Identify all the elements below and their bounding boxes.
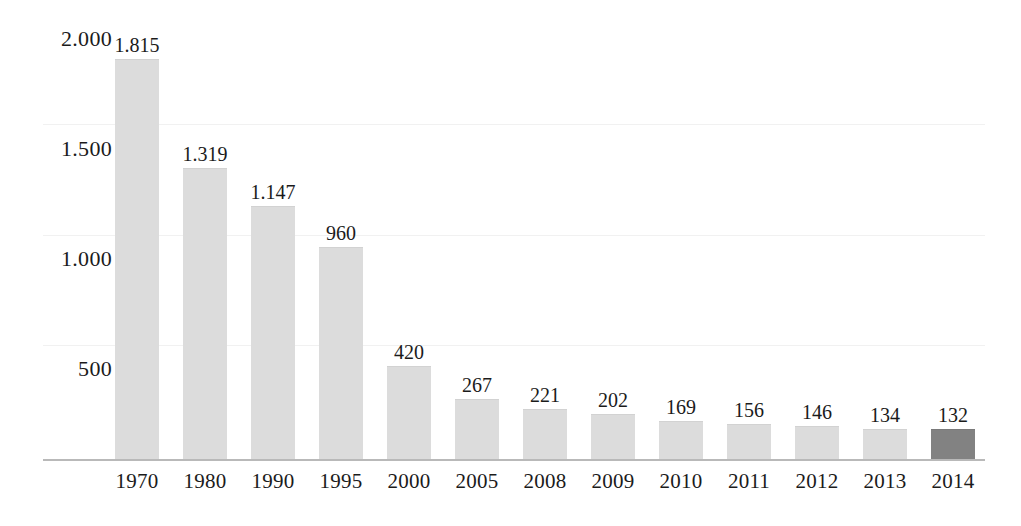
bar-group[interactable]: 960	[307, 214, 375, 459]
y-axis-tick-label-500: 500	[20, 356, 112, 382]
bar-value-label-2011: 156	[715, 400, 783, 425]
bar-1995[interactable]	[319, 247, 363, 459]
bar-value-label-2005: 267	[443, 375, 511, 400]
bar-value-label-2000: 420	[375, 342, 443, 367]
bar-group[interactable]: 1.815	[103, 26, 171, 459]
y-axis-tick-label-1500: 1.500	[20, 136, 112, 162]
bar-1990[interactable]	[251, 206, 295, 459]
bar-group[interactable]: 1.319	[171, 135, 239, 459]
x-axis-tick-label-1990: 1990	[239, 469, 307, 494]
x-axis-tick-label-2014: 2014	[919, 469, 987, 494]
bar-group[interactable]: 1.147	[239, 173, 307, 459]
bar-1970[interactable]	[115, 59, 159, 459]
gridline-1750	[43, 124, 985, 125]
bar-2014[interactable]	[931, 429, 975, 459]
bar-2010[interactable]	[659, 421, 703, 459]
x-axis-tick-label-1980: 1980	[171, 469, 239, 494]
x-axis-tick-label-2005: 2005	[443, 469, 511, 494]
bar-group[interactable]: 169	[647, 388, 715, 459]
bar-2009[interactable]	[591, 414, 635, 459]
bar-2013[interactable]	[863, 429, 907, 459]
bar-group[interactable]: 146	[783, 393, 851, 459]
y-axis-tick-label-2000: 2.000	[20, 26, 112, 52]
bar-value-label-1980: 1.319	[171, 144, 239, 169]
bar-group[interactable]: 156	[715, 391, 783, 459]
bar-value-label-1995: 960	[307, 223, 375, 248]
x-axis-tick-label-2011: 2011	[715, 469, 783, 494]
bar-2011[interactable]	[727, 424, 771, 459]
bar-group[interactable]: 221	[511, 376, 579, 459]
bar-group[interactable]: 267	[443, 366, 511, 459]
bar-value-label-2008: 221	[511, 385, 579, 410]
bar-group[interactable]: 202	[579, 381, 647, 459]
bar-group[interactable]: 132	[919, 396, 987, 459]
x-axis-tick-label-1995: 1995	[307, 469, 375, 494]
bar-value-label-1990: 1.147	[239, 182, 307, 207]
bar-value-label-2010: 169	[647, 397, 715, 422]
bar-value-label-2009: 202	[579, 390, 647, 415]
bar-2000[interactable]	[387, 366, 431, 459]
bar-1980[interactable]	[183, 168, 227, 459]
bar-group[interactable]: 134	[851, 396, 919, 459]
bar-group[interactable]: 420	[375, 333, 443, 459]
bar-2005[interactable]	[455, 399, 499, 459]
bar-value-label-2014: 132	[919, 405, 987, 430]
bar-2008[interactable]	[523, 409, 567, 459]
x-axis-tick-label-2008: 2008	[511, 469, 579, 494]
x-axis-tick-label-2000: 2000	[375, 469, 443, 494]
bar-value-label-2012: 146	[783, 402, 851, 427]
plot-area: 2.000 1.500 1.000 500 1.8151.3191.147960…	[0, 0, 1021, 526]
bar-value-label-2013: 134	[851, 405, 919, 430]
x-axis-tick-label-2013: 2013	[851, 469, 919, 494]
x-axis-tick-label-2010: 2010	[647, 469, 715, 494]
x-axis-tick-label-1970: 1970	[103, 469, 171, 494]
bar-chart: 2.000 1.500 1.000 500 1.8151.3191.147960…	[0, 0, 1021, 526]
bar-value-label-1970: 1.815	[103, 35, 171, 60]
x-axis-line	[43, 459, 985, 461]
x-axis-tick-label-2009: 2009	[579, 469, 647, 494]
x-axis-tick-label-2012: 2012	[783, 469, 851, 494]
y-axis-tick-label-1000: 1.000	[20, 246, 112, 272]
bar-2012[interactable]	[795, 426, 839, 459]
